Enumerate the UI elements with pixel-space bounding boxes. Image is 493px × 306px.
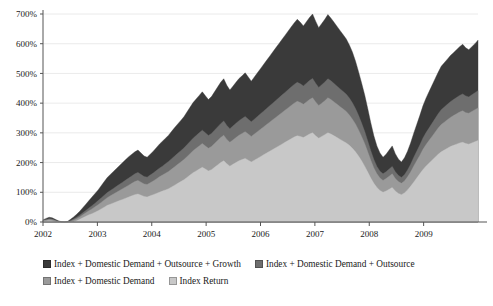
- y-tick-label: 200%: [16, 158, 38, 168]
- y-tick-label: 600%: [16, 39, 38, 49]
- chart-canvas: 0%100%200%300%400%500%600%700%2002200320…: [0, 0, 493, 250]
- legend-swatch-icon: [43, 277, 51, 285]
- legend-item[interactable]: Index Return: [169, 277, 229, 286]
- y-tick-label: 100%: [16, 187, 38, 197]
- y-tick-label: 700%: [16, 9, 38, 19]
- x-tick-label: 2007: [306, 229, 325, 239]
- legend-item[interactable]: Index + Domestic Demand + Outsource + Gr…: [43, 260, 241, 269]
- y-tick-label: 500%: [16, 69, 38, 79]
- plot-area: 0%100%200%300%400%500%600%700%2002200320…: [0, 0, 493, 250]
- legend-label: Index + Domestic Demand: [54, 277, 155, 286]
- legend-label: Index Return: [180, 277, 229, 286]
- x-tick-label: 2003: [88, 229, 107, 239]
- y-tick-label: 0%: [25, 217, 38, 227]
- x-tick-label: 2002: [34, 229, 52, 239]
- chart-legend: Index + Domestic Demand + Outsource + Gr…: [0, 256, 493, 290]
- legend-row: Index + Domestic Demand + Outsource + Gr…: [0, 256, 493, 273]
- x-tick-label: 2006: [252, 229, 271, 239]
- legend-item[interactable]: Index + Domestic Demand: [43, 277, 155, 286]
- legend-label: Index + Domestic Demand + Outsource: [266, 260, 415, 269]
- legend-swatch-icon: [255, 260, 263, 268]
- y-tick-label: 300%: [16, 128, 38, 138]
- stacked-area-chart: 0%100%200%300%400%500%600%700%2002200320…: [0, 0, 493, 306]
- x-tick-label: 2009: [415, 229, 434, 239]
- legend-item[interactable]: Index + Domestic Demand + Outsource: [255, 260, 415, 269]
- legend-row: Index + Domestic DemandIndex Return: [0, 273, 493, 290]
- legend-swatch-icon: [169, 277, 177, 285]
- y-tick-label: 400%: [16, 98, 38, 108]
- x-tick-label: 2004: [143, 229, 162, 239]
- legend-swatch-icon: [43, 260, 51, 268]
- legend-label: Index + Domestic Demand + Outsource + Gr…: [54, 260, 241, 269]
- x-tick-label: 2005: [197, 229, 216, 239]
- x-tick-label: 2008: [360, 229, 379, 239]
